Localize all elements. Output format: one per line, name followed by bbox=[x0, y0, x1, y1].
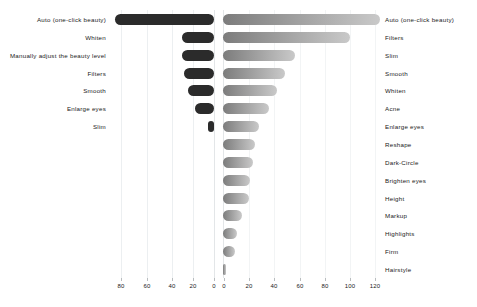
x-axis: 806040200020406080100120 bbox=[0, 278, 477, 298]
bar-right bbox=[223, 121, 259, 132]
x-tick-right-20 bbox=[249, 278, 250, 281]
x-tick-label-right-60: 60 bbox=[296, 283, 303, 289]
bar-right bbox=[223, 32, 350, 43]
x-tick-label-right-120: 120 bbox=[370, 283, 381, 289]
bar-row: Auto (one-click beauty)Auto (one-click b… bbox=[0, 11, 477, 29]
bar-left bbox=[182, 50, 214, 61]
bar-left bbox=[208, 121, 214, 132]
right-category-label: Filters bbox=[385, 29, 404, 47]
bar-right bbox=[223, 139, 255, 150]
x-tick-left-0 bbox=[214, 278, 215, 281]
left-category-label: Manually adjust the beauty level bbox=[10, 47, 106, 65]
right-category-label: Height bbox=[385, 190, 404, 208]
bar-right bbox=[223, 228, 237, 239]
bar-row: Firm bbox=[0, 243, 477, 261]
bar-left bbox=[188, 85, 214, 96]
left-category-label: Auto (one-click beauty) bbox=[37, 11, 106, 29]
x-tick-right-0 bbox=[224, 278, 225, 281]
bar-right bbox=[223, 246, 235, 257]
diverging-bar-chart: Auto (one-click beauty)Auto (one-click b… bbox=[0, 0, 477, 307]
bar-right bbox=[223, 157, 253, 168]
bar-row: Hairstyle bbox=[0, 261, 477, 279]
bar-left bbox=[195, 103, 214, 114]
x-tick-right-100 bbox=[350, 278, 351, 281]
bar-row: Dark-Circle bbox=[0, 154, 477, 172]
x-tick-label-left-40: 40 bbox=[168, 283, 175, 289]
bar-row: WhitenFilters bbox=[0, 29, 477, 47]
x-tick-label-right-20: 20 bbox=[245, 283, 252, 289]
right-category-label: Highlights bbox=[385, 225, 415, 243]
right-category-label: Acne bbox=[385, 100, 400, 118]
x-tick-label-right-40: 40 bbox=[270, 283, 277, 289]
bar-row: Enlarge eyesAcne bbox=[0, 100, 477, 118]
bar-right bbox=[223, 68, 285, 79]
x-tick-right-80 bbox=[325, 278, 326, 281]
right-category-label: Reshape bbox=[385, 136, 412, 154]
bar-row: Highlights bbox=[0, 225, 477, 243]
bar-row: SmoothWhiten bbox=[0, 82, 477, 100]
bar-right bbox=[223, 264, 226, 275]
x-tick-right-40 bbox=[274, 278, 275, 281]
x-tick-label-right-0: 0 bbox=[222, 283, 226, 289]
x-tick-label-left-80: 80 bbox=[117, 283, 124, 289]
right-category-label: Dark-Circle bbox=[385, 154, 419, 172]
right-category-label: Auto (one-click beauty) bbox=[385, 11, 454, 29]
left-category-label: Slim bbox=[93, 118, 106, 136]
right-category-label: Markup bbox=[385, 207, 407, 225]
left-category-label: Smooth bbox=[83, 82, 106, 100]
right-category-label: Smooth bbox=[385, 65, 408, 83]
bar-left bbox=[182, 32, 214, 43]
left-category-label: Filters bbox=[87, 65, 106, 83]
x-tick-left-20 bbox=[193, 278, 194, 281]
bar-row: FiltersSmooth bbox=[0, 65, 477, 83]
bar-right bbox=[223, 210, 242, 221]
x-tick-left-60 bbox=[147, 278, 148, 281]
bar-right bbox=[223, 14, 380, 25]
x-tick-right-60 bbox=[300, 278, 301, 281]
plot-area: Auto (one-click beauty)Auto (one-click b… bbox=[0, 0, 477, 307]
x-tick-left-40 bbox=[172, 278, 173, 281]
left-category-label: Whiten bbox=[85, 29, 106, 47]
bar-right bbox=[223, 85, 277, 96]
bar-right bbox=[223, 50, 295, 61]
left-category-label: Enlarge eyes bbox=[67, 100, 106, 118]
bar-row: SlimEnlarge eyes bbox=[0, 118, 477, 136]
x-tick-label-left-0: 0 bbox=[212, 283, 216, 289]
bar-row: Brighten eyes bbox=[0, 172, 477, 190]
right-category-label: Slim bbox=[385, 47, 398, 65]
bar-row: Markup bbox=[0, 207, 477, 225]
bar-right bbox=[223, 175, 250, 186]
bar-left bbox=[115, 14, 214, 25]
x-tick-label-right-80: 80 bbox=[321, 283, 328, 289]
bar-row: Height bbox=[0, 190, 477, 208]
bar-row: Reshape bbox=[0, 136, 477, 154]
right-category-label: Hairstyle bbox=[385, 261, 411, 279]
x-tick-right-120 bbox=[375, 278, 376, 281]
x-tick-left-80 bbox=[121, 278, 122, 281]
bar-row: Manually adjust the beauty levelSlim bbox=[0, 47, 477, 65]
x-tick-label-left-20: 20 bbox=[189, 283, 196, 289]
right-category-label: Brighten eyes bbox=[385, 172, 426, 190]
bar-right bbox=[223, 103, 269, 114]
bar-right bbox=[223, 193, 249, 204]
x-tick-label-left-60: 60 bbox=[143, 283, 150, 289]
bar-left bbox=[184, 68, 214, 79]
right-category-label: Enlarge eyes bbox=[385, 118, 424, 136]
x-tick-label-right-100: 100 bbox=[345, 283, 356, 289]
right-category-label: Firm bbox=[385, 243, 398, 261]
right-category-label: Whiten bbox=[385, 82, 406, 100]
